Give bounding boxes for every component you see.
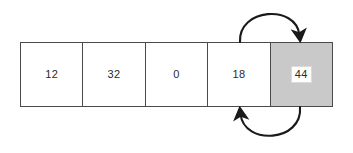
array-cell-4-highlighted[interactable]: 44 [271,43,332,106]
array-cell-value: 18 [232,69,245,80]
array-cell-3[interactable]: 18 [208,43,270,106]
array-cell-value: 32 [108,69,121,80]
array-cell-0[interactable]: 12 [21,43,83,106]
array-cell-1[interactable]: 32 [83,43,145,106]
top-arrow [240,14,300,42]
bottom-arrow [241,107,301,136]
array-cell-value: 12 [45,69,58,80]
array-cells: 12 32 0 18 44 [20,42,333,107]
array-cell-2[interactable]: 0 [146,43,208,106]
array-swap-diagram: 12 32 0 18 44 [0,0,353,153]
array-cell-value: 0 [173,69,180,80]
array-cell-value: 44 [291,66,312,83]
